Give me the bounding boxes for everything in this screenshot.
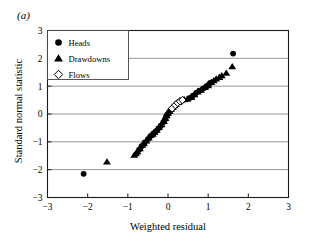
legend-label: Heads <box>69 38 91 48</box>
x-tick-label: −2 <box>83 202 93 212</box>
x-tick-label: 1 <box>206 202 211 212</box>
legend-label: Flows <box>69 70 91 80</box>
legend-marker-filled-circle <box>55 39 62 46</box>
x-tick-label: 2 <box>246 202 251 212</box>
y-tick-label: −2 <box>32 165 42 175</box>
x-tick-label: 3 <box>286 202 291 212</box>
data-point-filled-triangle <box>228 63 236 69</box>
x-tick-label: −3 <box>42 202 52 212</box>
y-tick-label: 1 <box>38 82 43 92</box>
y-tick-label: −1 <box>32 137 42 147</box>
legend-label: Drawdowns <box>69 54 111 64</box>
data-point-filled-circle <box>81 171 87 177</box>
y-tick-label: 0 <box>38 109 43 119</box>
data-point-filled-circle <box>230 51 236 57</box>
legend-item-flows[interactable]: Flows <box>54 70 90 80</box>
y-axis-tick-labels: −3−2−10123 <box>32 26 42 203</box>
data-point-filled-triangle <box>222 69 230 75</box>
legend: HeadsDrawdownsFlows <box>48 31 129 80</box>
y-tick-label: 2 <box>38 54 43 64</box>
panel-label: (a) <box>17 9 30 21</box>
x-axis-ticks <box>48 194 289 198</box>
x-axis-tick-labels: −3−2−10123 <box>42 202 291 212</box>
data-point-filled-triangle <box>103 158 111 164</box>
x-tick-label: 0 <box>166 202 171 212</box>
y-tick-label: −3 <box>32 193 42 203</box>
series-flows <box>168 96 186 112</box>
x-tick-label: −1 <box>123 202 133 212</box>
scatter-plot-canvas: −3−2−10123 −3−2−10123 Weighted residual … <box>0 0 309 241</box>
y-axis-title: Standard normal statistic <box>13 58 24 163</box>
y-tick-label: 3 <box>38 26 43 36</box>
x-axis-title: Weighted residual <box>130 221 206 232</box>
normal-probability-plot-figure: (a) −3−2−10123 −3−2−10123 Weighted resid… <box>0 0 309 241</box>
